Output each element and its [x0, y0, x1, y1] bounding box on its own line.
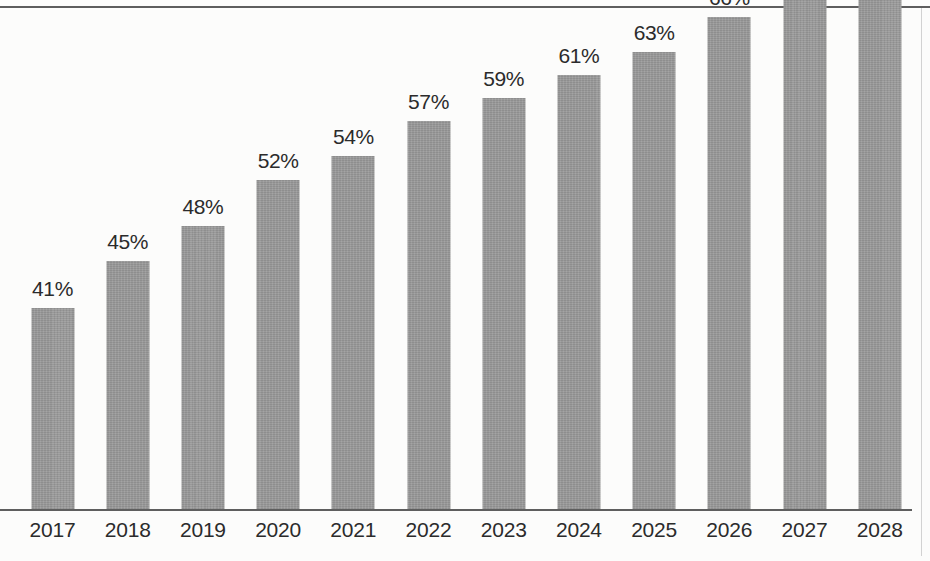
- bar: [332, 156, 375, 510]
- bar: [407, 121, 450, 510]
- x-axis-tick-label: 2024: [541, 518, 617, 542]
- bar-value-label: 59%: [466, 67, 542, 91]
- x-axis-tick-label: 2027: [767, 518, 843, 542]
- bar-value-label: 45%: [90, 230, 166, 254]
- bar-value-label: 48%: [165, 195, 241, 219]
- bar-group: 52%: [240, 180, 316, 510]
- bar-value-label: 61%: [541, 44, 617, 68]
- bar-group: 45%: [90, 261, 166, 510]
- bar-value-label: 54%: [315, 125, 391, 149]
- bar: [31, 308, 74, 510]
- x-axis-tick-label: 2028: [842, 518, 918, 542]
- bar: [257, 180, 300, 510]
- bar-group: 54%: [315, 156, 391, 510]
- bar-group: 63%: [616, 52, 692, 510]
- bar-value-label: 52%: [240, 149, 316, 173]
- bar: [482, 98, 525, 510]
- bar-group: 68%: [767, 0, 843, 510]
- x-axis-tick-label: 2022: [391, 518, 467, 542]
- bar-value-label: 66%: [691, 0, 767, 10]
- bar-group: 66%: [691, 17, 767, 510]
- x-axis-tick-label: 2019: [165, 518, 241, 542]
- bar-group: 59%: [466, 98, 542, 510]
- x-axis-tick-label: 2021: [315, 518, 391, 542]
- x-axis-tick-label: 2020: [240, 518, 316, 542]
- bar: [181, 226, 224, 510]
- x-axis-tick-label: 2026: [691, 518, 767, 542]
- bar-value-label: 57%: [391, 90, 467, 114]
- bar-group: 61%: [541, 75, 617, 510]
- plot-area: 41%45%48%52%54%57%59%61%63%66%68%70%: [0, 0, 930, 561]
- bar-group: 48%: [165, 226, 241, 510]
- bar: [783, 0, 826, 510]
- bar: [633, 52, 676, 510]
- bar-group: 41%: [15, 308, 91, 510]
- x-axis-baseline: [0, 509, 912, 511]
- bar-value-label: 63%: [616, 21, 692, 45]
- bar-group: 57%: [391, 121, 467, 510]
- x-axis-tick-label: 2025: [616, 518, 692, 542]
- x-axis-tick-label: 2023: [466, 518, 542, 542]
- bar: [557, 75, 600, 510]
- bar-value-label: 41%: [15, 277, 91, 301]
- x-axis-tick-label: 2017: [15, 518, 91, 542]
- bar: [106, 261, 149, 510]
- bar: [708, 17, 751, 510]
- bar: [858, 0, 901, 510]
- bar-chart-figure: 41%45%48%52%54%57%59%61%63%66%68%70% 201…: [0, 0, 930, 561]
- bar-group: 70%: [842, 0, 918, 510]
- x-axis-tick-label: 2018: [90, 518, 166, 542]
